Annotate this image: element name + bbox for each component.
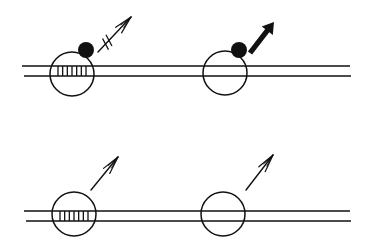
arrow-shaft xyxy=(91,157,118,190)
shapes xyxy=(50,17,274,236)
panel-top-right xyxy=(203,22,274,95)
track-lines xyxy=(22,66,351,221)
panel-top-left xyxy=(50,17,131,96)
diagram-canvas xyxy=(0,0,368,251)
arrow-shaft xyxy=(246,155,273,190)
diagram-svg xyxy=(0,0,368,251)
panel-bottom-right xyxy=(201,155,273,236)
block-slash xyxy=(103,38,109,49)
blob-marker xyxy=(231,42,247,58)
block-slash xyxy=(106,35,112,46)
blob-marker xyxy=(78,42,94,58)
thick-arrow xyxy=(248,22,274,55)
panel-bottom-left xyxy=(52,157,118,236)
arrow-shaft xyxy=(98,17,131,52)
circle-node xyxy=(201,192,245,236)
